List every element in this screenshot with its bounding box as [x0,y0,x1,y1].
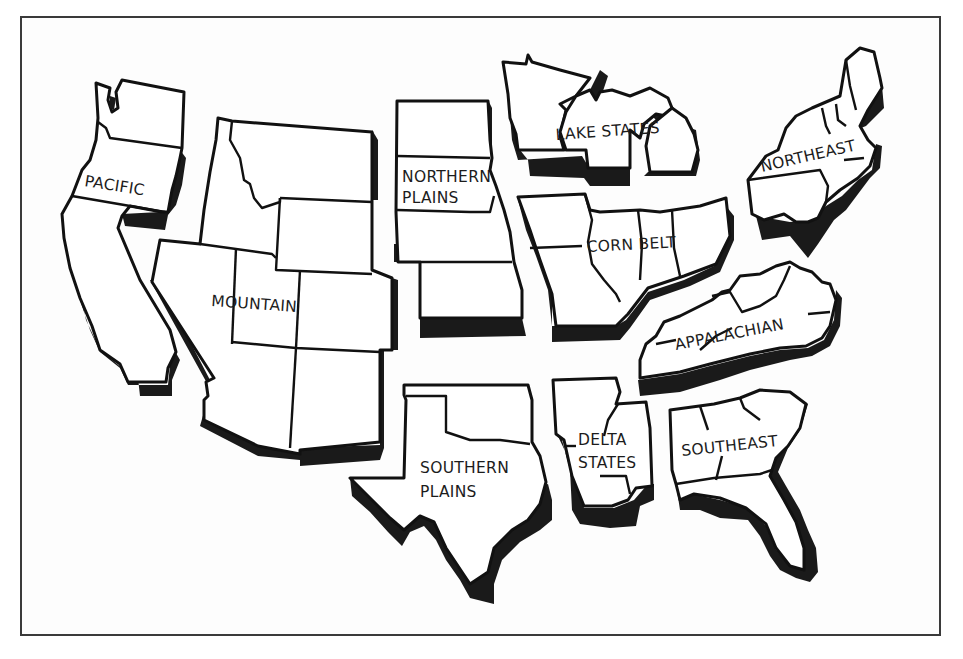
region-lake-states[interactable]: LAKE STATES [503,55,700,186]
region-northern-plains[interactable]: NORTHERN PLAINS [394,100,526,338]
region-label-southern-plains-1: SOUTHERN [420,459,509,477]
region-southeast[interactable]: SOUTHEAST [670,390,818,582]
region-label-delta-states-2: STATES [578,454,636,472]
region-mountain[interactable]: MOUNTAIN [150,118,398,466]
region-pacific[interactable]: PACIFIC [62,80,186,396]
region-label-northern-plains-2: PLAINS [402,189,459,207]
region-label-northern-plains-1: NORTHERN [402,168,491,186]
region-label-southern-plains-2: PLAINS [420,483,477,501]
us-regions-map: PACIFIC MOUNTAIN NORTHERN PLAINS [0,0,963,659]
region-label-delta-states-1: DELTA [578,431,627,449]
region-northeast[interactable]: NORTHEAST [748,48,884,258]
region-delta-states[interactable]: DELTA STATES [553,378,654,528]
